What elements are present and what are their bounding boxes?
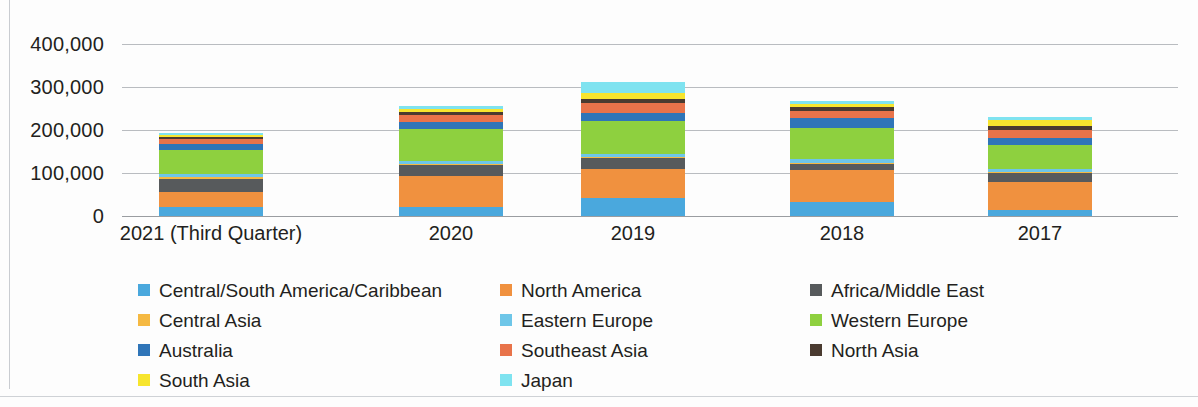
stacked-bar[interactable] — [581, 82, 685, 216]
legend-label: Eastern Europe — [521, 311, 653, 330]
bar-segment[interactable] — [399, 129, 503, 160]
legend-item[interactable]: Japan — [500, 371, 810, 390]
legend-item[interactable]: Eastern Europe — [500, 311, 810, 330]
legend-row: South AsiaJapan — [138, 365, 1138, 395]
bar-segment[interactable] — [159, 150, 263, 174]
y-axis-tick-label: 100,000 — [30, 162, 104, 185]
bar-segment[interactable] — [159, 207, 263, 216]
bar-segment[interactable] — [790, 118, 894, 127]
legend-label: South Asia — [159, 371, 250, 390]
bar-segment[interactable] — [399, 176, 503, 206]
legend-swatch-icon — [138, 344, 150, 356]
legend-row: AustraliaSoutheast AsiaNorth Asia — [138, 335, 1138, 365]
x-axis-category-label: 2020 — [429, 222, 474, 245]
bar-segment[interactable] — [988, 173, 1092, 182]
legend-item[interactable]: Australia — [138, 341, 500, 360]
bar-segment[interactable] — [790, 111, 894, 119]
stacked-bar[interactable] — [159, 133, 263, 216]
legend-item[interactable]: Africa/Middle East — [810, 281, 1130, 300]
bar-segment[interactable] — [581, 82, 685, 93]
stacked-bar[interactable] — [790, 101, 894, 216]
bar-group — [122, 44, 1178, 216]
x-axis-category-label: 2017 — [1018, 222, 1063, 245]
legend-swatch-icon — [810, 284, 822, 296]
legend-row: Central/South America/CaribbeanNorth Ame… — [138, 275, 1138, 305]
x-axis-category-label: 2021 (Third Quarter) — [120, 222, 302, 245]
legend-item[interactable]: Southeast Asia — [500, 341, 810, 360]
x-axis-category-label: 2018 — [820, 222, 865, 245]
legend-item[interactable]: Central Asia — [138, 311, 500, 330]
legend-label: Africa/Middle East — [831, 281, 984, 300]
bar-segment[interactable] — [988, 210, 1092, 216]
bar-segment[interactable] — [988, 138, 1092, 145]
y-axis-labels: 0100,000200,000300,000400,000 — [0, 36, 112, 226]
legend-label: North America — [521, 281, 641, 300]
stacked-bar[interactable] — [988, 117, 1092, 216]
bar-segment[interactable] — [581, 113, 685, 122]
bar-segment[interactable] — [399, 165, 503, 177]
legend-label: Southeast Asia — [521, 341, 648, 360]
legend-item[interactable]: South Asia — [138, 371, 500, 390]
bar-segment[interactable] — [159, 192, 263, 207]
x-axis-line — [122, 216, 1178, 217]
chart-legend: Central/South America/CaribbeanNorth Ame… — [138, 275, 1138, 395]
bar-segment[interactable] — [790, 202, 894, 216]
chart-page: 0100,000200,000300,000400,000 2021 (Thir… — [0, 0, 1198, 407]
x-axis-labels: 2021 (Third Quarter)2020201920182017 — [122, 222, 1178, 250]
stacked-bar[interactable] — [399, 106, 503, 216]
plot-area — [122, 44, 1178, 216]
legend-swatch-icon — [138, 374, 150, 386]
legend-swatch-icon — [500, 314, 512, 326]
x-axis-category-label: 2019 — [611, 222, 656, 245]
bar-segment[interactable] — [159, 179, 263, 192]
legend-row: Central AsiaEastern EuropeWestern Europe — [138, 305, 1138, 335]
y-axis-tick-label: 400,000 — [30, 33, 104, 56]
legend-item[interactable]: North America — [500, 281, 810, 300]
bar-segment[interactable] — [988, 182, 1092, 210]
legend-label: North Asia — [831, 341, 919, 360]
legend-swatch-icon — [138, 314, 150, 326]
bar-segment[interactable] — [581, 198, 685, 216]
legend-item[interactable]: North Asia — [810, 341, 1130, 360]
bar-segment[interactable] — [790, 170, 894, 202]
legend-item[interactable]: Central/South America/Caribbean — [138, 281, 500, 300]
bar-segment[interactable] — [790, 128, 894, 159]
y-axis-tick-label: 0 — [93, 205, 104, 228]
legend-swatch-icon — [500, 374, 512, 386]
legend-label: Japan — [521, 371, 573, 390]
legend-label: Central Asia — [159, 311, 261, 330]
y-axis-tick-label: 200,000 — [30, 119, 104, 142]
bar-segment[interactable] — [581, 103, 685, 113]
bar-segment[interactable] — [399, 122, 503, 129]
legend-swatch-icon — [810, 314, 822, 326]
legend-swatch-icon — [500, 284, 512, 296]
bar-segment[interactable] — [581, 158, 685, 169]
page-bottom-rule — [0, 396, 1198, 397]
bar-segment[interactable] — [988, 145, 1092, 170]
legend-item-empty — [810, 374, 1130, 386]
bar-segment[interactable] — [581, 121, 685, 153]
legend-label: Central/South America/Caribbean — [159, 281, 442, 300]
bar-segment[interactable] — [399, 207, 503, 216]
legend-label: Australia — [159, 341, 233, 360]
legend-swatch-icon — [810, 344, 822, 356]
bar-segment[interactable] — [581, 169, 685, 198]
bar-segment[interactable] — [988, 130, 1092, 138]
legend-swatch-icon — [500, 344, 512, 356]
legend-swatch-icon — [138, 284, 150, 296]
legend-label: Western Europe — [831, 311, 968, 330]
y-axis-tick-label: 300,000 — [30, 76, 104, 99]
legend-item[interactable]: Western Europe — [810, 311, 1130, 330]
